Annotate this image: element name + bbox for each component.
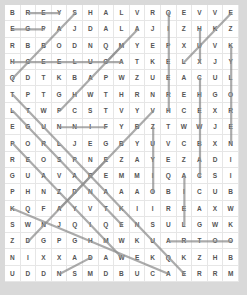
letter-cell[interactable]: D: [21, 70, 37, 86]
letter-cell[interactable]: O: [52, 38, 68, 54]
letter-cell[interactable]: R: [223, 103, 239, 119]
letter-cell[interactable]: Q: [5, 70, 21, 86]
letter-cell[interactable]: V: [192, 5, 208, 21]
letter-cell[interactable]: Z: [192, 249, 208, 265]
letter-cell[interactable]: O: [208, 233, 224, 249]
letter-cell[interactable]: H: [192, 21, 208, 37]
letter-cell[interactable]: O: [223, 233, 239, 249]
letter-cell[interactable]: L: [52, 135, 68, 151]
letter-cell[interactable]: E: [177, 5, 193, 21]
letter-cell[interactable]: I: [145, 168, 161, 184]
letter-cell[interactable]: L: [5, 103, 21, 119]
letter-cell[interactable]: E: [177, 86, 193, 102]
letter-cell[interactable]: W: [21, 217, 37, 233]
letter-cell[interactable]: T: [99, 86, 115, 102]
letter-cell[interactable]: A: [161, 233, 177, 249]
letter-cell[interactable]: L: [114, 5, 130, 21]
letter-cell[interactable]: B: [130, 119, 146, 135]
letter-cell[interactable]: U: [208, 184, 224, 200]
letter-cell[interactable]: T: [99, 201, 115, 217]
letter-cell[interactable]: Y: [52, 5, 68, 21]
letter-cell[interactable]: N: [36, 184, 52, 200]
letter-cell[interactable]: J: [52, 217, 68, 233]
letter-cell[interactable]: R: [5, 38, 21, 54]
letter-cell[interactable]: C: [192, 184, 208, 200]
letter-cell[interactable]: Y: [145, 152, 161, 168]
letter-cell[interactable]: M: [223, 266, 239, 282]
letter-cell[interactable]: Z: [114, 152, 130, 168]
letter-cell[interactable]: V: [83, 201, 99, 217]
letter-cell[interactable]: E: [5, 119, 21, 135]
letter-cell[interactable]: A: [130, 184, 146, 200]
letter-cell[interactable]: A: [130, 21, 146, 37]
letter-cell[interactable]: A: [67, 168, 83, 184]
letter-cell[interactable]: V: [130, 5, 146, 21]
letter-cell[interactable]: W: [223, 201, 239, 217]
letter-cell[interactable]: U: [145, 70, 161, 86]
letter-cell[interactable]: X: [52, 249, 68, 265]
letter-cell[interactable]: C: [192, 168, 208, 184]
letter-cell[interactable]: A: [99, 21, 115, 37]
letter-cell[interactable]: D: [36, 266, 52, 282]
letter-cell[interactable]: R: [130, 86, 146, 102]
letter-cell[interactable]: V: [161, 135, 177, 151]
letter-cell[interactable]: Z: [223, 21, 239, 37]
letter-cell[interactable]: X: [36, 249, 52, 265]
letter-cell[interactable]: T: [36, 70, 52, 86]
letter-cell[interactable]: U: [145, 135, 161, 151]
letter-cell[interactable]: N: [130, 217, 146, 233]
letter-cell[interactable]: E: [99, 152, 115, 168]
letter-cell[interactable]: K: [145, 54, 161, 70]
letter-cell[interactable]: W: [208, 217, 224, 233]
letter-cell[interactable]: Z: [52, 184, 68, 200]
letter-cell[interactable]: R: [145, 5, 161, 21]
letter-cell[interactable]: G: [99, 135, 115, 151]
letter-cell[interactable]: U: [161, 217, 177, 233]
letter-cell[interactable]: C: [177, 135, 193, 151]
letter-cell[interactable]: H: [192, 86, 208, 102]
letter-cell[interactable]: K: [177, 249, 193, 265]
letter-cell[interactable]: H: [114, 86, 130, 102]
letter-cell[interactable]: V: [208, 5, 224, 21]
letter-cell[interactable]: L: [223, 70, 239, 86]
letter-cell[interactable]: H: [21, 184, 37, 200]
letter-cell[interactable]: J: [67, 21, 83, 37]
letter-cell[interactable]: N: [83, 152, 99, 168]
letter-cell[interactable]: H: [83, 5, 99, 21]
letter-cell[interactable]: T: [36, 86, 52, 102]
letter-cell[interactable]: V: [114, 103, 130, 119]
letter-cell[interactable]: N: [145, 86, 161, 102]
letter-cell[interactable]: W: [114, 249, 130, 265]
letter-cell[interactable]: I: [83, 217, 99, 233]
letter-cell[interactable]: O: [36, 152, 52, 168]
letter-cell[interactable]: I: [145, 201, 161, 217]
letter-cell[interactable]: S: [83, 103, 99, 119]
letter-cell[interactable]: G: [5, 168, 21, 184]
letter-cell[interactable]: D: [67, 38, 83, 54]
letter-cell[interactable]: Y: [130, 103, 146, 119]
letter-cell[interactable]: A: [161, 266, 177, 282]
letter-cell[interactable]: E: [99, 168, 115, 184]
letter-cell[interactable]: V: [145, 103, 161, 119]
letter-cell[interactable]: Q: [161, 5, 177, 21]
letter-cell[interactable]: K: [114, 201, 130, 217]
letter-cell[interactable]: M: [99, 233, 115, 249]
letter-cell[interactable]: W: [36, 103, 52, 119]
letter-cell[interactable]: E: [5, 21, 21, 37]
letter-cell[interactable]: B: [114, 266, 130, 282]
letter-cell[interactable]: W: [83, 86, 99, 102]
letter-cell[interactable]: C: [21, 54, 37, 70]
letter-cell[interactable]: E: [177, 201, 193, 217]
letter-cell[interactable]: S: [67, 266, 83, 282]
letter-cell[interactable]: I: [21, 249, 37, 265]
letter-cell[interactable]: H: [161, 103, 177, 119]
letter-cell[interactable]: P: [67, 152, 83, 168]
letter-cell[interactable]: U: [36, 119, 52, 135]
letter-cell[interactable]: Q: [161, 168, 177, 184]
letter-cell[interactable]: H: [5, 54, 21, 70]
letter-cell[interactable]: J: [208, 119, 224, 135]
letter-cell[interactable]: N: [5, 249, 21, 265]
letter-cell[interactable]: U: [83, 54, 99, 70]
letter-cell[interactable]: E: [52, 54, 68, 70]
letter-cell[interactable]: L: [67, 54, 83, 70]
